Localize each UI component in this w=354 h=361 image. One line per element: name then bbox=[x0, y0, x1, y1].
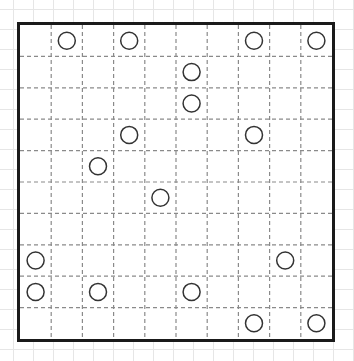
grid-cell[interactable] bbox=[270, 25, 301, 56]
grid-cell[interactable] bbox=[20, 276, 51, 307]
grid-cell[interactable] bbox=[82, 308, 113, 339]
grid-cell[interactable] bbox=[82, 56, 113, 87]
grid-cell[interactable] bbox=[51, 56, 82, 87]
grid-cell[interactable] bbox=[238, 213, 269, 244]
grid-cell[interactable] bbox=[82, 182, 113, 213]
grid-cell[interactable] bbox=[301, 182, 332, 213]
grid-cell[interactable] bbox=[20, 25, 51, 56]
grid-cell[interactable] bbox=[51, 88, 82, 119]
grid-cell[interactable] bbox=[82, 151, 113, 182]
grid-cell[interactable] bbox=[176, 25, 207, 56]
grid-cell[interactable] bbox=[176, 56, 207, 87]
grid-cell[interactable] bbox=[145, 151, 176, 182]
grid-cell[interactable] bbox=[176, 308, 207, 339]
grid-cell[interactable] bbox=[114, 88, 145, 119]
grid-cell[interactable] bbox=[238, 88, 269, 119]
grid-cell[interactable] bbox=[207, 88, 238, 119]
grid-cell[interactable] bbox=[238, 119, 269, 150]
grid-cell[interactable] bbox=[114, 56, 145, 87]
grid-cell[interactable] bbox=[207, 151, 238, 182]
grid-cell[interactable] bbox=[82, 245, 113, 276]
grid-cell[interactable] bbox=[20, 308, 51, 339]
grid-cell[interactable] bbox=[82, 88, 113, 119]
grid-cell[interactable] bbox=[145, 182, 176, 213]
grid-cell[interactable] bbox=[20, 151, 51, 182]
grid-cell[interactable] bbox=[270, 182, 301, 213]
grid-cell[interactable] bbox=[51, 213, 82, 244]
grid-cell[interactable] bbox=[301, 119, 332, 150]
grid-cell[interactable] bbox=[51, 25, 82, 56]
grid-cell[interactable] bbox=[207, 56, 238, 87]
grid-cell[interactable] bbox=[20, 56, 51, 87]
grid-cell[interactable] bbox=[207, 276, 238, 307]
grid-cell[interactable] bbox=[301, 88, 332, 119]
grid-cell[interactable] bbox=[176, 182, 207, 213]
grid-cell[interactable] bbox=[51, 151, 82, 182]
grid-cell[interactable] bbox=[301, 151, 332, 182]
grid-cell[interactable] bbox=[82, 25, 113, 56]
grid-cell[interactable] bbox=[207, 25, 238, 56]
grid-cell[interactable] bbox=[20, 213, 51, 244]
grid-cell[interactable] bbox=[301, 276, 332, 307]
grid-cell[interactable] bbox=[114, 25, 145, 56]
grid-cell[interactable] bbox=[207, 308, 238, 339]
grid-cell[interactable] bbox=[145, 56, 176, 87]
grid-cell[interactable] bbox=[270, 308, 301, 339]
grid-cell[interactable] bbox=[270, 276, 301, 307]
grid-cell[interactable] bbox=[114, 308, 145, 339]
grid-cell[interactable] bbox=[145, 119, 176, 150]
grid-cell[interactable] bbox=[176, 213, 207, 244]
grid-cell[interactable] bbox=[270, 151, 301, 182]
grid-cell[interactable] bbox=[301, 56, 332, 87]
grid-cell[interactable] bbox=[145, 88, 176, 119]
grid-cell[interactable] bbox=[176, 88, 207, 119]
grid-cell[interactable] bbox=[270, 119, 301, 150]
grid-cell[interactable] bbox=[114, 182, 145, 213]
grid-cell[interactable] bbox=[238, 245, 269, 276]
grid-cell[interactable] bbox=[238, 276, 269, 307]
grid-cell[interactable] bbox=[51, 308, 82, 339]
grid-cell[interactable] bbox=[238, 56, 269, 87]
grid-cell[interactable] bbox=[270, 88, 301, 119]
grid-cell[interactable] bbox=[114, 119, 145, 150]
grid-cell[interactable] bbox=[82, 213, 113, 244]
grid-cell[interactable] bbox=[270, 56, 301, 87]
grid-cell[interactable] bbox=[51, 276, 82, 307]
grid-cell[interactable] bbox=[145, 213, 176, 244]
grid-cell[interactable] bbox=[301, 245, 332, 276]
grid-cell[interactable] bbox=[176, 276, 207, 307]
grid-cell[interactable] bbox=[270, 245, 301, 276]
grid-cell[interactable] bbox=[82, 276, 113, 307]
grid-cell[interactable] bbox=[145, 276, 176, 307]
grid-cell[interactable] bbox=[20, 88, 51, 119]
grid-cell[interactable] bbox=[301, 308, 332, 339]
grid-cell[interactable] bbox=[301, 25, 332, 56]
grid-cell[interactable] bbox=[51, 245, 82, 276]
grid-cell[interactable] bbox=[238, 25, 269, 56]
grid-cell[interactable] bbox=[176, 151, 207, 182]
grid-cell[interactable] bbox=[207, 245, 238, 276]
grid-cell[interactable] bbox=[238, 308, 269, 339]
grid-cell[interactable] bbox=[82, 119, 113, 150]
grid-cell[interactable] bbox=[176, 119, 207, 150]
grid-cell[interactable] bbox=[20, 182, 51, 213]
grid-cell[interactable] bbox=[20, 245, 51, 276]
grid-cell[interactable] bbox=[176, 245, 207, 276]
grid-cell[interactable] bbox=[114, 276, 145, 307]
grid-cell[interactable] bbox=[270, 213, 301, 244]
grid-cell[interactable] bbox=[207, 213, 238, 244]
grid-cell[interactable] bbox=[114, 245, 145, 276]
grid-cell[interactable] bbox=[51, 182, 82, 213]
grid-cell[interactable] bbox=[114, 213, 145, 244]
grid-cell[interactable] bbox=[20, 119, 51, 150]
grid-cell[interactable] bbox=[238, 182, 269, 213]
grid-cell[interactable] bbox=[145, 245, 176, 276]
grid-cell[interactable] bbox=[114, 151, 145, 182]
grid-cell[interactable] bbox=[207, 119, 238, 150]
grid-cell[interactable] bbox=[145, 25, 176, 56]
grid-cell[interactable] bbox=[301, 213, 332, 244]
grid-cell[interactable] bbox=[145, 308, 176, 339]
grid-cell[interactable] bbox=[238, 151, 269, 182]
grid-cell[interactable] bbox=[207, 182, 238, 213]
grid-cell[interactable] bbox=[51, 119, 82, 150]
